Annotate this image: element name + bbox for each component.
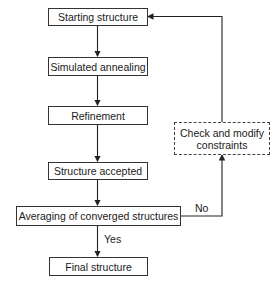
edge-label-no: No — [195, 202, 208, 214]
node-structure-accepted: Structure accepted — [48, 162, 148, 180]
node-check-constraints: Check and modify constraints — [174, 122, 270, 155]
node-refinement: Refinement — [48, 106, 148, 125]
node-label: Structure accepted — [54, 165, 142, 177]
node-label: Starting structure — [58, 11, 138, 23]
edge-label-yes: Yes — [104, 233, 121, 245]
node-label: Refinement — [71, 110, 125, 122]
node-final-structure: Final structure — [49, 257, 148, 276]
node-label: Check and modify constraints — [179, 127, 265, 151]
node-label: Final structure — [65, 261, 132, 273]
node-simulated-annealing: Simulated annealing — [48, 57, 148, 76]
node-label: Simulated annealing — [50, 61, 145, 73]
node-averaging: Averaging of converged structures — [16, 206, 181, 226]
node-starting-structure: Starting structure — [48, 8, 148, 26]
node-label: Averaging of converged structures — [19, 210, 179, 222]
